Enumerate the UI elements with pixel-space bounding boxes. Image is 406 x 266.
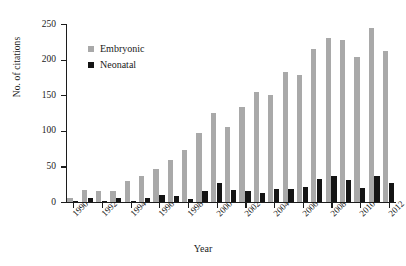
y-tick-label: 0 — [16, 198, 56, 208]
bar-neonatal — [317, 179, 322, 202]
bar-embryonic — [139, 176, 144, 202]
y-tick-mark — [61, 166, 66, 167]
bar-group — [225, 24, 237, 202]
bar-neonatal — [116, 198, 121, 202]
y-tick-mark — [61, 24, 66, 25]
bar-embryonic — [82, 190, 87, 202]
bar-embryonic — [354, 57, 359, 202]
legend-label-embryonic: Embryonic — [100, 44, 144, 54]
bar-embryonic — [125, 181, 130, 202]
bar-embryonic — [268, 95, 273, 202]
legend-item-neonatal: Neonatal — [88, 57, 144, 73]
bar-group — [254, 24, 266, 202]
bar-group — [196, 24, 208, 202]
bar-neonatal — [374, 176, 379, 202]
y-tick-mark — [61, 60, 66, 61]
bar-group — [297, 24, 309, 202]
bar-neonatal — [131, 201, 136, 202]
bar-embryonic — [254, 92, 259, 202]
y-tick-label: 200 — [16, 55, 56, 65]
bar-group — [211, 24, 223, 202]
bar-neonatal — [260, 193, 265, 202]
legend: Embryonic Neonatal — [88, 41, 144, 73]
bar-embryonic — [383, 51, 388, 202]
x-axis-title: Year — [0, 243, 406, 254]
y-tick-mark — [61, 202, 66, 203]
bar-embryonic — [67, 198, 72, 202]
bar-neonatal — [73, 201, 78, 202]
bar-embryonic — [211, 113, 216, 202]
bar-group — [311, 24, 323, 202]
bar-embryonic — [340, 40, 345, 202]
bar-embryonic — [326, 38, 331, 202]
bar-group — [326, 24, 338, 202]
legend-swatch-neonatal-icon — [88, 62, 94, 68]
bar-neonatal — [102, 201, 107, 202]
bar-neonatal — [360, 188, 365, 202]
bar-group — [239, 24, 251, 202]
bar-embryonic — [225, 127, 230, 202]
bar-neonatal — [331, 176, 336, 202]
y-tick-mark — [61, 95, 66, 96]
bar-group — [369, 24, 381, 202]
bar-neonatal — [88, 198, 93, 202]
y-tick-label: 50 — [16, 162, 56, 172]
bar-embryonic — [311, 49, 316, 202]
bar-group — [153, 24, 165, 202]
citations-bar-chart: No. of citations 050100150200250 1990199… — [0, 0, 406, 266]
bar-embryonic — [168, 160, 173, 202]
bar-neonatal — [274, 189, 279, 202]
bar-neonatal — [145, 198, 150, 202]
bar-group — [182, 24, 194, 202]
y-tick-label: 150 — [16, 91, 56, 101]
y-tick-label: 100 — [16, 126, 56, 136]
bar-group — [283, 24, 295, 202]
legend-label-neonatal: Neonatal — [100, 60, 136, 70]
bar-group — [340, 24, 352, 202]
bar-group — [383, 24, 395, 202]
bar-embryonic — [153, 169, 158, 202]
bar-neonatal — [288, 189, 293, 202]
legend-swatch-embryonic-icon — [88, 46, 94, 52]
bar-neonatal — [346, 180, 351, 202]
bar-neonatal — [159, 195, 164, 202]
bar-embryonic — [96, 191, 101, 202]
bar-embryonic — [239, 107, 244, 202]
y-tick-mark — [61, 131, 66, 132]
bar-embryonic — [182, 150, 187, 202]
bar-group — [168, 24, 180, 202]
bar-neonatal — [303, 187, 308, 202]
bar-embryonic — [283, 72, 288, 202]
bar-group — [268, 24, 280, 202]
bar-neonatal — [389, 183, 394, 202]
bar-neonatal — [231, 190, 236, 202]
bar-neonatal — [174, 196, 179, 202]
bar-group — [354, 24, 366, 202]
bar-embryonic — [297, 75, 302, 202]
bar-neonatal — [217, 183, 222, 202]
bar-neonatal — [202, 191, 207, 202]
bar-group — [67, 24, 79, 202]
bar-embryonic — [196, 133, 201, 202]
bar-embryonic — [369, 28, 374, 202]
y-tick-label: 250 — [16, 20, 56, 30]
bar-embryonic — [110, 191, 115, 202]
bar-neonatal — [245, 191, 250, 202]
bar-neonatal — [188, 199, 193, 202]
legend-item-embryonic: Embryonic — [88, 41, 144, 57]
